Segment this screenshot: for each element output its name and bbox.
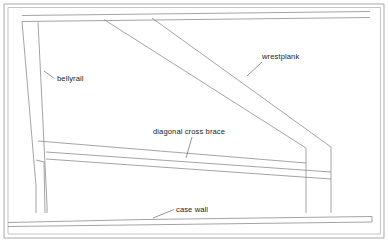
label-diagonal-cross-brace: diagonal cross brace [153,127,225,136]
case-construction-diagram: bellyrail wrestplank diagonal cross brac… [0,0,388,242]
label-bellyrail: bellyrail [57,74,84,83]
label-wrestplank: wrestplank [261,52,299,61]
diagram-canvas: bellyrail wrestplank diagonal cross brac… [0,0,388,242]
label-case-wall: case wall [176,205,208,214]
